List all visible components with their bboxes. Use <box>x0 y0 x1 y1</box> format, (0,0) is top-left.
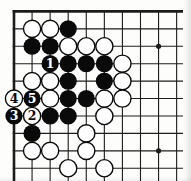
white-stone <box>23 20 40 37</box>
go-board-svg: 14532 <box>0 0 191 181</box>
move-number-label: 5 <box>28 91 37 106</box>
black-stone <box>60 107 77 124</box>
black-stone <box>42 107 59 124</box>
white-stone <box>23 73 40 90</box>
white-stone <box>96 160 113 177</box>
white-stone <box>42 20 59 37</box>
black-stone <box>60 90 77 107</box>
white-stone <box>42 90 59 107</box>
white-stone <box>96 90 113 107</box>
move-number-label: 3 <box>10 108 19 123</box>
white-stone <box>96 38 113 55</box>
move-number-label: 1 <box>46 56 55 71</box>
white-stone <box>114 55 131 72</box>
white-stone <box>78 125 95 142</box>
go-diagram: 14532 <box>0 0 191 181</box>
white-stone <box>60 38 77 55</box>
black-stone <box>60 73 77 90</box>
black-stone <box>96 55 113 72</box>
black-stone <box>23 38 40 55</box>
move-number-label: 4 <box>10 91 19 106</box>
white-stone <box>96 107 113 124</box>
white-stone <box>114 73 131 90</box>
black-stone <box>96 73 113 90</box>
black-stone <box>78 55 95 72</box>
move-number-label: 2 <box>28 108 37 123</box>
white-stone <box>78 142 95 159</box>
white-stone <box>42 73 59 90</box>
star-point <box>156 148 161 153</box>
black-stone <box>60 55 77 72</box>
white-stone <box>60 160 77 177</box>
white-stone <box>114 90 131 107</box>
black-stone <box>42 38 59 55</box>
white-stone <box>42 142 59 159</box>
black-stone <box>23 125 40 142</box>
star-point <box>156 44 161 49</box>
black-stone <box>60 20 77 37</box>
black-stone <box>78 90 95 107</box>
white-stone <box>23 142 40 159</box>
white-stone <box>78 38 95 55</box>
